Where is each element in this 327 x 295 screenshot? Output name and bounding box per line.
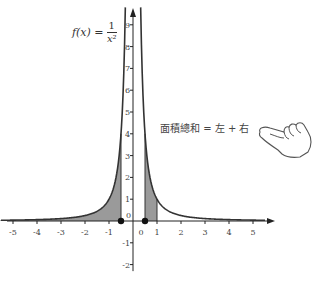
x-tick-label: 1 — [154, 228, 159, 237]
area-sum-annotation: 面積總和 = 左 + 右 — [160, 120, 249, 135]
y-tick-label: 5 — [125, 108, 130, 117]
y-tick-label: 0 — [126, 211, 131, 220]
marked-point — [118, 218, 124, 224]
formula-numerator: 1 — [107, 20, 117, 33]
x-tick-label: -1 — [105, 228, 113, 237]
y-tick-label: 4 — [125, 130, 130, 139]
x-tick-label: 4 — [226, 228, 231, 237]
y-tick-label: 2 — [125, 173, 130, 182]
y-tick-label: 1 — [125, 195, 130, 204]
y-tick-label: 3 — [125, 152, 130, 161]
x-tick-label: 3 — [202, 228, 207, 237]
y-tick-label: 7 — [125, 64, 130, 73]
pointing-hand-icon — [256, 114, 316, 164]
formula-lhs: f(x) = — [72, 26, 104, 39]
x-tick-label: -3 — [57, 228, 65, 237]
x-tick-label: -4 — [33, 228, 41, 237]
x-axis-arrow — [267, 218, 275, 224]
y-tick-label: 8 — [125, 43, 130, 52]
y-tick-label: 6 — [125, 86, 130, 95]
x-tick-label: -5 — [9, 228, 17, 237]
function-formula: f(x) = 1 x² — [72, 20, 117, 45]
y-tick-label: -2 — [122, 261, 130, 270]
y-axis-arrow — [130, 8, 136, 17]
y-tick-label: 9 — [125, 21, 130, 30]
x-tick-label: 0 — [138, 228, 143, 237]
formula-fraction: 1 x² — [107, 20, 117, 45]
y-tick-label: -1 — [122, 239, 130, 248]
shaded-regions — [1, 134, 157, 221]
x-tick-label: 5 — [250, 228, 255, 237]
formula-denominator: x² — [107, 33, 117, 45]
x-tick-label: 2 — [178, 228, 183, 237]
tick-labels: -5-4-3-2-1012345-2-10123456789 — [9, 21, 255, 270]
curve-right-branch — [141, 7, 265, 220]
marked-point — [142, 218, 148, 224]
x-tick-label: -2 — [81, 228, 89, 237]
